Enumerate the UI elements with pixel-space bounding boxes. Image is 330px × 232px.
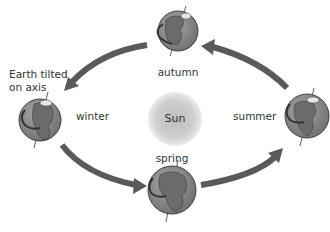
label-sun: Sun [165, 113, 186, 125]
globe-spring [148, 160, 196, 222]
arrow-autumn-to-winter [64, 45, 147, 91]
globe-summer [285, 88, 329, 146]
label-spring: spring [156, 152, 189, 164]
axis-annotation-line2: on axis [9, 81, 46, 93]
arrow-winter-to-spring [62, 145, 147, 194]
arrow-summer-to-autumn [201, 39, 287, 88]
seasons-diagram: Earth tilted on axis autumn winter summe… [0, 0, 330, 232]
globe-winter [19, 92, 61, 148]
label-winter: winter [76, 110, 109, 122]
label-summer: summer [233, 110, 276, 122]
globe-autumn [158, 6, 198, 56]
axis-annotation-line1: Earth tilted [9, 68, 68, 80]
label-autumn: autumn [158, 66, 199, 78]
arrow-spring-to-summer [201, 148, 283, 185]
